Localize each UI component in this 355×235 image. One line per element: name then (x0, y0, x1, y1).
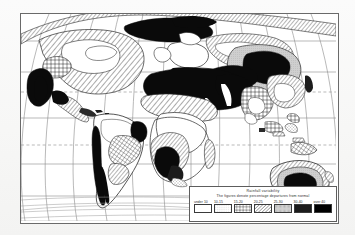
gray-pattern-icon (275, 205, 291, 212)
legend-swatch-row: under 10 10-15 (193, 200, 333, 214)
legend-swatch-15-20 (234, 204, 252, 213)
legend-label-30-40: 30-40 (294, 200, 312, 204)
legend-swatch-over-40 (314, 204, 332, 213)
stipple-pattern-icon (215, 205, 231, 212)
legend-swatch-30-40 (294, 204, 312, 213)
legend-label-25-30: 25-30 (274, 200, 292, 204)
legend-class-over-40: over 40 (314, 200, 332, 214)
rainfall-variability-legend: Rainfall variability The figures denote … (189, 186, 337, 222)
map-page: Rainfall variability The figures denote … (0, 0, 355, 235)
legend-label-10-15: 10-15 (214, 200, 232, 204)
legend-label-under-10: under 10 (194, 200, 212, 204)
legend-class-30-40: 30-40 (294, 200, 312, 214)
legend-class-15-20: 15-20 (234, 200, 252, 214)
legend-label-20-25: 20-25 (254, 200, 272, 204)
legend-swatch-under-10 (194, 204, 212, 213)
legend-class-10-15: 10-15 (214, 200, 232, 214)
legend-title: Rainfall variability (193, 189, 333, 194)
legend-class-25-30: 25-30 (274, 200, 292, 214)
legend-class-under-10: under 10 (194, 200, 212, 214)
legend-label-15-20: 15-20 (234, 200, 252, 204)
legend-subtitle: The figures denote percentage departures… (193, 194, 333, 199)
map-frame: Rainfall variability The figures denote … (20, 13, 339, 224)
circles-pattern-icon (235, 205, 251, 212)
legend-label-over-40: over 40 (314, 200, 332, 204)
legend-swatch-25-30 (274, 204, 292, 213)
legend-swatch-10-15 (214, 204, 232, 213)
legend-class-20-25: 20-25 (254, 200, 272, 214)
hatch-pattern-icon (255, 205, 271, 212)
legend-swatch-20-25 (254, 204, 272, 213)
